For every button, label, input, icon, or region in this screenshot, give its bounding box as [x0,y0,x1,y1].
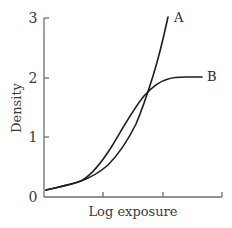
x-axis-title: Log exposure [88,204,177,219]
y-tick-label-0: 0 [29,189,38,205]
y-tick-label-3: 3 [29,10,38,26]
series-label-b: B [207,69,217,84]
curve-b [46,77,202,190]
curve-a [46,17,168,190]
density-chart: 3 2 1 0 Density Log exposure A B [0,0,232,228]
y-axis-title: Density [9,82,24,133]
series-label-a: A [173,10,184,25]
y-tick-label-2: 2 [29,70,38,86]
y-tick-label-1: 1 [29,129,38,145]
axes [44,18,222,197]
